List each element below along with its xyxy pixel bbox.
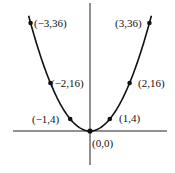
point-label-neg1: (−1,4) [32, 113, 60, 126]
data-point [87, 128, 92, 133]
data-point [127, 81, 132, 86]
data-point [108, 117, 113, 122]
point-label-neg2: (−2,16) [51, 77, 84, 90]
point-label-pos3: (3,36) [115, 17, 142, 30]
point-label-neg3: (−3,36) [34, 17, 67, 30]
point-label-pos1: (1,4) [119, 112, 140, 125]
point-label-origin: (0,0) [92, 137, 113, 150]
data-point [147, 21, 152, 26]
point-label-pos2: (2,16) [138, 77, 165, 90]
parabola-chart: (−3,36) (−2,16) (−1,4) (0,0) (1,4) (2,16… [0, 0, 175, 173]
data-point [68, 117, 73, 122]
data-point [28, 21, 33, 26]
